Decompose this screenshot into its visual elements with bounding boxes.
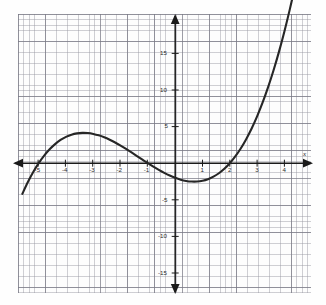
x-tick-label-3: 3: [255, 167, 258, 173]
x-tick-label-1: 1: [201, 167, 204, 173]
arrow-up-icon: [171, 14, 180, 24]
y-tick-label--5: -5: [162, 197, 168, 203]
y-tick-label--15: -15: [158, 270, 167, 276]
arrow-down-icon: [171, 284, 180, 294]
y-tick-label-5: 5: [165, 123, 168, 129]
y-tick-label--10: -10: [158, 233, 167, 239]
x-tick-label-2: 2: [228, 167, 231, 173]
function-curve: [22, 0, 294, 194]
y-tick-label-10: 10: [160, 87, 167, 93]
arrow-right-icon: [303, 159, 313, 168]
x-tick-label--5: -5: [35, 167, 41, 173]
x-tick-label--1: -1: [144, 167, 150, 173]
y-tick-label-15: 15: [160, 50, 167, 56]
x-tick-label--3: -3: [89, 167, 95, 173]
graph-figure: -5 -4 -3 -2 -1 1 2 3 4 15 10 5 -5 -10 -1…: [0, 0, 326, 305]
plot-canvas: [0, 0, 326, 305]
x-tick-label--2: -2: [117, 167, 123, 173]
arrow-left-icon: [13, 159, 23, 168]
x-axis-name-label: x: [303, 150, 306, 158]
x-tick-label--4: -4: [62, 167, 68, 173]
x-tick-label-4: 4: [283, 167, 286, 173]
